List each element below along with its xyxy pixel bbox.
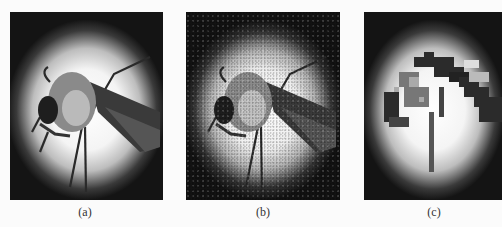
noise-overlay	[186, 12, 340, 200]
panel-a-image	[10, 12, 163, 200]
panel-c-image	[364, 12, 502, 200]
panel-b-image	[186, 12, 340, 200]
mosquito-pixelated	[364, 12, 502, 200]
mosquito-illustration	[10, 12, 163, 200]
panel-c-caption: (c)	[414, 205, 454, 220]
panel-b-caption: (b)	[243, 205, 283, 220]
panel-a-caption: (a)	[65, 205, 105, 220]
